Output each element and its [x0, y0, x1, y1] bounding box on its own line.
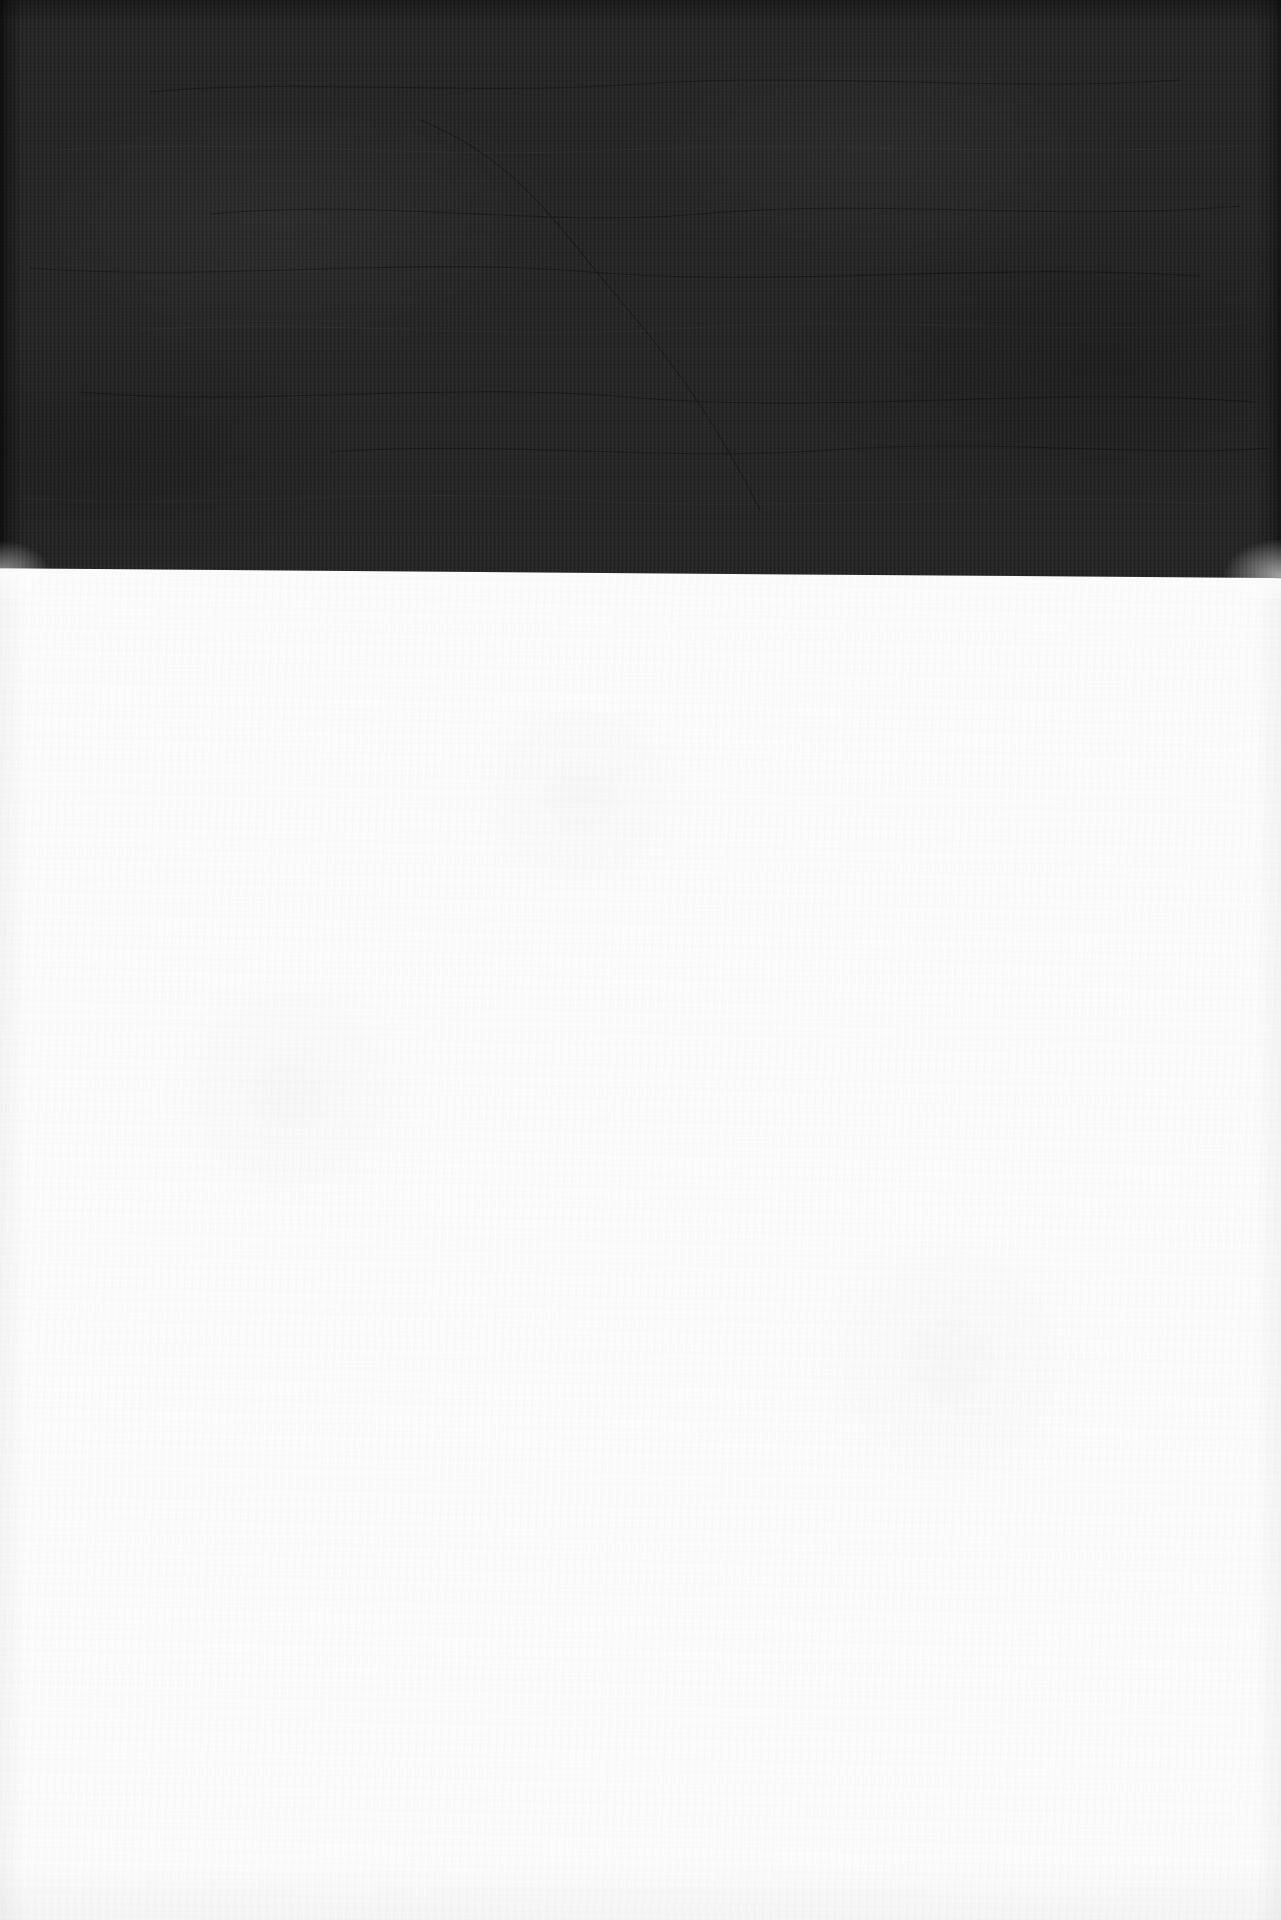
paper-tone-blotch: [430, 700, 730, 890]
textile-edge-shading: [0, 0, 1281, 584]
textile-weft-texture: [0, 0, 1281, 584]
dark-textile-band: [0, 0, 1281, 584]
textile-tonal-clouding: [0, 0, 1281, 584]
textile-rib-texture: [0, 0, 1281, 584]
textile-crease-lines: [0, 0, 1281, 584]
paper-tone-blotch: [760, 1240, 1140, 1480]
paper-tone-blotch: [120, 980, 460, 1200]
scanned-surface-photo: [0, 0, 1281, 1920]
